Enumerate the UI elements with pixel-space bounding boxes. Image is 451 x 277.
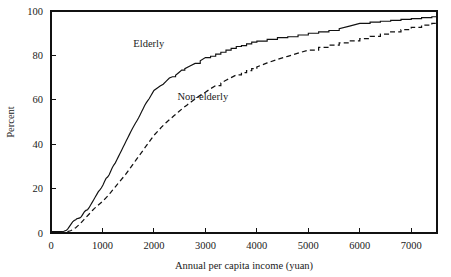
data-curves [51,16,437,232]
y-tick-label: 40 [33,139,44,150]
x-tick-label: 1000 [92,240,113,251]
series-label-non-elderly: Non-elderly [177,91,228,102]
x-tick-label: 4000 [246,240,267,251]
series-label-elderly: Elderly [133,38,165,49]
cdf-chart: 01000200030004000500060007000 0204060801… [0,0,451,277]
x-tick-label: 3000 [195,240,216,251]
plot-frame [51,11,437,233]
x-tick-label: 7000 [401,240,422,251]
x-axis-title: Annual per capita income (yuan) [175,260,314,272]
y-tick-label: 60 [33,94,44,105]
axes [51,11,437,233]
y-tick-label: 80 [33,50,44,61]
x-tick-labels: 01000200030004000500060007000 [48,240,421,251]
y-tick-label: 100 [27,6,43,17]
x-tick-label: 2000 [143,240,164,251]
y-tick-labels: 020406080100 [27,6,43,239]
chart-figure: 01000200030004000500060007000 0204060801… [0,0,451,277]
x-tick-label: 0 [48,240,53,251]
y-tick-label: 0 [38,228,43,239]
x-tick-label: 6000 [349,240,370,251]
y-tick-label: 20 [33,183,44,194]
y-axis-title: Percent [5,106,16,138]
series-annotations: ElderlyNon-elderly [133,38,229,102]
curve-elderly [51,16,437,231]
x-tick-label: 5000 [298,240,319,251]
curve-non-elderly [51,23,437,233]
